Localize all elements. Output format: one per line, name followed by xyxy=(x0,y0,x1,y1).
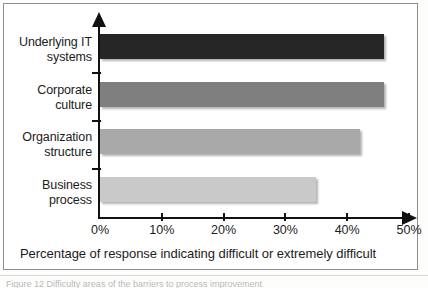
category-label-line: process xyxy=(0,193,92,208)
x-axis-tick xyxy=(346,213,348,221)
y-axis-tick xyxy=(92,72,101,74)
x-axis-tick-label: 0% xyxy=(73,223,127,237)
category-label-line: structure xyxy=(0,145,92,160)
bar-chart: Underlying IT systems Corporate culture … xyxy=(4,4,419,271)
category-label-line: Underlying IT xyxy=(0,35,92,50)
category-label-underlying-it-systems: Underlying IT systems xyxy=(0,35,92,64)
category-label-line: Business xyxy=(0,178,92,193)
category-label-line: Corporate xyxy=(0,83,92,98)
x-axis-tick xyxy=(161,213,163,221)
figure-frame: Underlying IT systems Corporate culture … xyxy=(3,3,418,270)
category-label-line: systems xyxy=(0,50,92,65)
scanned-page: Underlying IT systems Corporate culture … xyxy=(0,0,428,288)
category-label-line: culture xyxy=(0,98,92,113)
x-axis-tick-label: 10% xyxy=(135,223,189,237)
x-axis-tick-label: 50% xyxy=(382,223,428,237)
figure-page-caption: Figure 12 Difficulty areas of the barrie… xyxy=(6,279,426,288)
category-label-line: Organization xyxy=(0,130,92,145)
category-label-business-process: Business process xyxy=(0,178,92,207)
y-axis-tick xyxy=(92,168,101,170)
y-axis-line xyxy=(98,26,100,219)
bar-organization-structure xyxy=(100,129,360,154)
caption-divider xyxy=(0,275,428,276)
bar-business-process xyxy=(100,177,316,202)
y-axis-tick xyxy=(92,120,101,122)
x-axis-tick-label: 30% xyxy=(258,223,312,237)
category-label-corporate-culture: Corporate culture xyxy=(0,83,92,112)
x-axis-line xyxy=(98,217,404,219)
bar-underlying-it-systems xyxy=(100,34,384,59)
x-axis-tick xyxy=(284,213,286,221)
x-axis-tick xyxy=(223,213,225,221)
x-axis-caption: Percentage of response indicating diffic… xyxy=(20,246,376,261)
x-axis-tick-label: 40% xyxy=(320,223,374,237)
x-axis-tick xyxy=(408,213,410,221)
bar-corporate-culture xyxy=(100,82,384,107)
y-axis-arrow-icon xyxy=(92,12,106,27)
category-label-organization-structure: Organization structure xyxy=(0,130,92,159)
x-axis-tick-label: 20% xyxy=(197,223,251,237)
